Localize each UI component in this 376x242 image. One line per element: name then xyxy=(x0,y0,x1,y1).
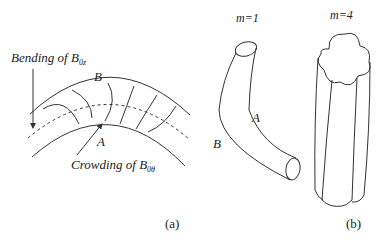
m1-point-b-label: B xyxy=(213,136,221,151)
panel-b xyxy=(219,33,370,206)
field-line-3 xyxy=(105,83,112,121)
field-line-5 xyxy=(136,95,157,129)
m4-flute-line-2 xyxy=(322,80,342,206)
m4-top-cross-section xyxy=(318,33,370,85)
m4-flute-line-3 xyxy=(342,78,357,206)
figure: Bending of B0z B A Crowding of B0θ (a) m… xyxy=(0,0,376,242)
m4-flute-line-1 xyxy=(315,58,323,200)
field-line-6 xyxy=(148,106,176,132)
crowding-label: Crowding of B0θ xyxy=(71,157,155,174)
m1-point-a-label: A xyxy=(251,110,260,125)
tube-outer-boundary xyxy=(30,77,190,115)
m4-label: m=4 xyxy=(330,8,353,22)
bending-label: Bending of B0z xyxy=(11,50,87,67)
m1-tube-right-edge xyxy=(249,48,296,158)
diagram-canvas: Bending of B0z B A Crowding of B0θ (a) m… xyxy=(0,0,376,242)
m1-bottom-cap xyxy=(284,157,302,181)
m1-label: m=1 xyxy=(236,11,259,25)
tube-centerline-dashed xyxy=(28,104,190,140)
caption-a: (a) xyxy=(165,216,179,231)
caption-b: (b) xyxy=(346,216,361,231)
field-line-2 xyxy=(72,90,92,118)
field-line-1 xyxy=(43,104,79,124)
point-b-label: B xyxy=(94,69,102,84)
panel-b-labels: m=1 m=4 A B (b) xyxy=(213,8,361,231)
point-a-label: A xyxy=(96,134,105,149)
panel-a xyxy=(28,69,190,166)
